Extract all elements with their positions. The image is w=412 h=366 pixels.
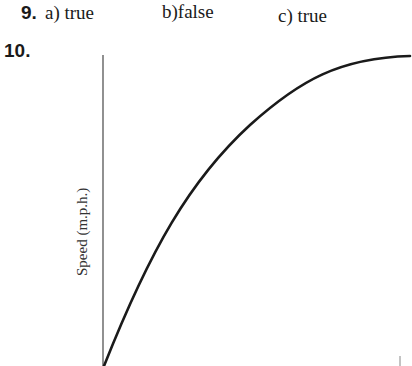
speed-graph (0, 0, 412, 366)
y-axis-label: Speed (m.p.h.) (74, 188, 91, 276)
speed-curve (104, 56, 410, 366)
